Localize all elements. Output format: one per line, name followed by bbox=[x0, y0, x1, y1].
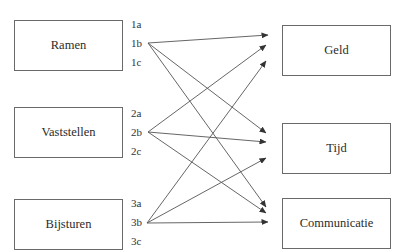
sub-label-2c: 2c bbox=[131, 146, 141, 157]
arrow-1b-to-geld bbox=[148, 35, 268, 43]
source-box-ramen: Ramen bbox=[14, 20, 123, 71]
sub-label-3b: 3b bbox=[131, 217, 142, 228]
sub-label-2a: 2a bbox=[131, 108, 141, 119]
target-label: Geld bbox=[324, 43, 348, 58]
arrow-1b-to-communicatie bbox=[148, 43, 266, 207]
target-box-geld: Geld bbox=[282, 25, 391, 76]
sub-label-3c: 3c bbox=[131, 236, 141, 247]
target-label: Communicatie bbox=[300, 216, 374, 231]
arrow-3b-to-communicatie bbox=[147, 222, 268, 223]
source-box-vaststellen: Vaststellen bbox=[14, 107, 123, 158]
arrow-3b-to-tijd bbox=[147, 158, 266, 223]
source-box-bijsturen: Bijsturen bbox=[14, 199, 123, 250]
arrow-2b-to-tijd bbox=[148, 132, 266, 142]
sub-label-1b: 1b bbox=[131, 38, 142, 49]
sub-label-1c: 1c bbox=[131, 57, 141, 68]
source-label: Bijsturen bbox=[46, 217, 92, 232]
source-label: Vaststellen bbox=[41, 125, 95, 140]
target-box-tijd: Tijd bbox=[282, 123, 391, 174]
source-label: Ramen bbox=[51, 38, 86, 53]
sub-label-1a: 1a bbox=[131, 19, 141, 30]
target-box-communicatie: Communicatie bbox=[282, 198, 391, 249]
sub-label-2b: 2b bbox=[131, 127, 142, 138]
sub-label-3a: 3a bbox=[131, 198, 141, 209]
arrow-3b-to-geld bbox=[147, 61, 266, 223]
arrow-2b-to-communicatie bbox=[148, 132, 266, 213]
target-label: Tijd bbox=[326, 141, 346, 156]
